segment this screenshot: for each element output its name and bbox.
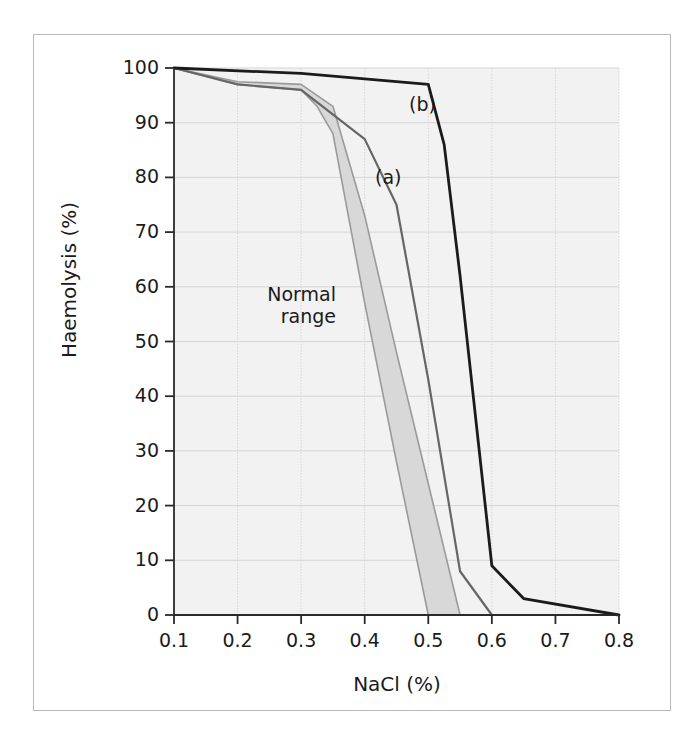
- y-tick-label: 60: [104, 275, 159, 297]
- x-tick-label: 0.1: [144, 629, 204, 651]
- y-tick-label: 90: [104, 111, 159, 133]
- y-tick-label: 100: [104, 56, 159, 78]
- x-tick-label: 0.2: [208, 629, 268, 651]
- y-tick-label: 10: [104, 548, 159, 570]
- series-label-b: (b): [409, 93, 436, 115]
- normal-range-label: Normal range: [208, 283, 336, 328]
- y-tick-label: 20: [104, 494, 159, 516]
- x-tick-label: 0.5: [398, 629, 458, 651]
- x-tick-label: 0.4: [335, 629, 395, 651]
- x-tick-label: 0.6: [462, 629, 522, 651]
- x-axis-title: NaCl (%): [174, 672, 620, 696]
- haemolysis-chart: Haemolysis (%) NaCl (%) Normal range (b)…: [0, 0, 696, 737]
- y-tick-label: 40: [104, 384, 159, 406]
- normal-range-label-line1: Normal: [267, 283, 336, 305]
- x-tick-label: 0.8: [589, 629, 649, 651]
- y-tick-label: 70: [104, 220, 159, 242]
- x-tick-label: 0.7: [525, 629, 585, 651]
- y-tick-label: 80: [104, 165, 159, 187]
- y-tick-label: 0: [104, 603, 159, 625]
- x-tick-label: 0.3: [271, 629, 331, 651]
- normal-range-label-line2: range: [281, 305, 336, 327]
- y-tick-label: 30: [104, 439, 159, 461]
- series-label-a: (a): [375, 166, 401, 188]
- y-tick-label: 50: [104, 330, 159, 352]
- y-axis-title: Haemolysis (%): [57, 180, 81, 380]
